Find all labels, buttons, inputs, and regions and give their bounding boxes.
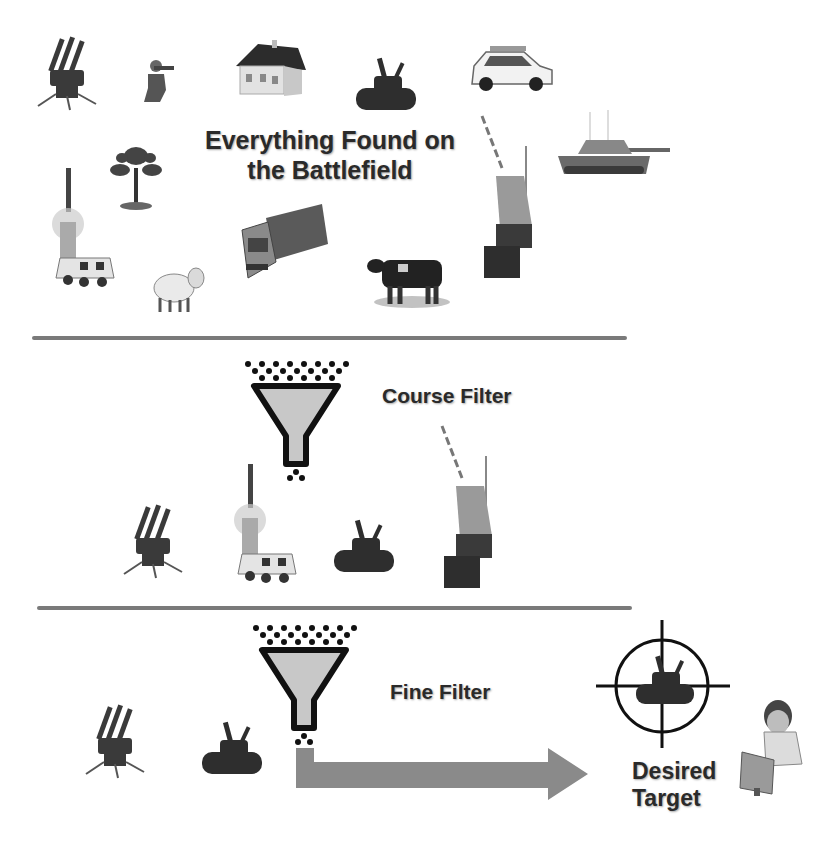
cargo-truck-icon <box>238 204 330 284</box>
desired-target-label: Desired Target <box>632 758 716 812</box>
divider-top <box>32 336 627 340</box>
rocket-launch-truck-icon <box>222 462 302 588</box>
course-filter-label: Course Filter <box>382 384 512 409</box>
anti-aircraft-tank-icon <box>330 516 398 578</box>
sheep-icon <box>150 262 208 314</box>
radar-tower-vehicle-icon <box>440 426 510 596</box>
battle-tank-icon <box>556 110 672 182</box>
funnel-icon <box>250 624 360 746</box>
desired-target-line-1: Desired <box>632 758 716 785</box>
missile-launcher-icon <box>118 500 188 580</box>
fine-filter-label: Fine Filter <box>390 680 490 705</box>
crosshair-target-icon <box>596 620 730 750</box>
title-line-1: Everything Found on <box>200 126 460 156</box>
missile-launcher-icon <box>80 700 150 780</box>
desired-target-line-2: Target <box>632 785 716 812</box>
house-icon <box>232 40 308 98</box>
rocket-launch-truck-icon <box>40 166 120 292</box>
title-everything-found: Everything Found on the Battlefield <box>200 126 460 185</box>
missile-launcher-icon <box>32 32 102 112</box>
soldier-icon <box>138 58 178 106</box>
cow-icon <box>366 252 460 310</box>
police-car-icon <box>468 44 556 94</box>
anti-aircraft-tank-icon <box>352 54 420 116</box>
operator-at-computer-icon <box>738 696 804 800</box>
radar-tower-vehicle-icon <box>480 116 550 286</box>
title-line-2: the Battlefield <box>200 156 460 186</box>
divider-bottom <box>37 606 632 610</box>
flow-arrow-icon <box>296 748 590 802</box>
anti-aircraft-tank-icon <box>198 718 266 780</box>
